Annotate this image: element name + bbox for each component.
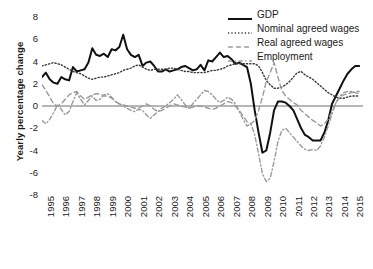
x-tick-label: 2007 — [232, 196, 242, 217]
y-tick-label: -4 — [16, 146, 38, 156]
x-tick-label: 1998 — [92, 196, 102, 217]
y-tick-label: -8 — [16, 190, 38, 200]
x-tick-label: 2012 — [309, 196, 319, 217]
x-tick-label: 1999 — [108, 196, 118, 217]
x-tick-label: 2013 — [324, 196, 334, 217]
legend: GDPNominal agreed wagesReal agreed wages… — [228, 8, 359, 64]
y-tick-label: 4 — [16, 57, 38, 67]
x-tick-label: 2014 — [340, 196, 350, 217]
x-tick-label: 2004 — [185, 196, 195, 217]
legend-swatch-icon — [228, 38, 252, 48]
x-tick-label: 2005 — [201, 196, 211, 217]
y-tick-label: -2 — [16, 123, 38, 133]
x-tick-label: 2002 — [154, 196, 164, 217]
series-line-nominal-agreed-wages — [42, 63, 359, 99]
y-axis-tick-labels: 86420-2-4-6-8 — [14, 17, 38, 195]
legend-swatch-icon — [228, 10, 252, 20]
chart-container: Yearly percentage change 86420-2-4-6-8 1… — [0, 0, 373, 269]
x-tick-label: 2009 — [263, 196, 273, 217]
legend-label: Real agreed wages — [257, 38, 343, 48]
legend-label: Nominal agreed wages — [257, 24, 359, 34]
x-tick-label: 2001 — [139, 196, 149, 217]
x-tick-label: 2015 — [355, 196, 365, 217]
x-tick-label: 2000 — [123, 196, 133, 217]
legend-label: Employment — [257, 52, 313, 62]
y-tick-label: 0 — [16, 101, 38, 111]
x-tick-label: 2011 — [294, 196, 304, 216]
x-tick-label: 2003 — [170, 196, 180, 217]
x-tick-label: 1997 — [77, 196, 87, 217]
y-tick-label: 2 — [16, 79, 38, 89]
legend-item-nominal-agreed-wages[interactable]: Nominal agreed wages — [228, 22, 359, 36]
x-tick-label: 2006 — [216, 196, 226, 217]
x-tick-label: 1996 — [61, 196, 71, 217]
series-line-employment — [42, 90, 359, 181]
legend-swatch-icon — [228, 52, 252, 62]
legend-item-gdp[interactable]: GDP — [228, 8, 359, 22]
legend-swatch-icon — [228, 24, 252, 34]
y-tick-label: 8 — [16, 12, 38, 22]
x-tick-label: 2008 — [247, 196, 257, 217]
legend-label: GDP — [257, 10, 279, 20]
x-tick-label: 2010 — [278, 196, 288, 217]
legend-item-employment[interactable]: Employment — [228, 50, 359, 64]
x-axis-tick-labels: 1995199619971998199920002001200220032004… — [42, 196, 363, 248]
y-tick-label: -6 — [16, 168, 38, 178]
y-tick-label: 6 — [16, 34, 38, 44]
legend-item-real-agreed-wages[interactable]: Real agreed wages — [228, 36, 359, 50]
x-tick-label: 1995 — [46, 196, 56, 217]
